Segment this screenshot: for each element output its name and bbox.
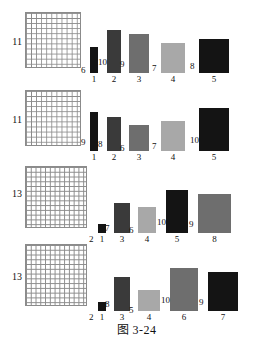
stage-row-3: 13 21736410598 — [0, 166, 273, 244]
bar-index-label: 4 — [171, 153, 176, 162]
stage-count-label-4: 13 — [0, 272, 22, 282]
scan-noise-artifact — [0, 0, 273, 6]
figure-3-24: 11 61102937485 11 91826374105 13 2173641… — [0, 0, 273, 342]
bar-value-label: 8 — [105, 300, 110, 309]
bar — [170, 268, 198, 311]
bar-value-label: 9 — [120, 60, 125, 69]
bar-index-label: 5 — [212, 75, 217, 84]
bar-slot: 106 — [170, 244, 198, 322]
bar-slot: 64 — [138, 166, 156, 244]
bar-index-label: 3 — [137, 75, 142, 84]
figure-caption: 图 3-24 — [0, 320, 273, 338]
stage-bars-3: 21736410598 — [98, 166, 231, 244]
bar-slot: 91 — [90, 90, 98, 162]
stage-grid-4 — [25, 244, 87, 306]
stage-grid-1 — [25, 12, 81, 68]
bar-slot: 83 — [114, 244, 130, 322]
bar — [198, 194, 231, 233]
bar — [199, 39, 229, 73]
bar-value-label: 9 — [199, 298, 204, 307]
bar — [199, 108, 229, 151]
stage-bars-2: 91826374105 — [90, 90, 229, 162]
bar — [166, 190, 188, 233]
bar-value-label: 10 — [161, 296, 170, 305]
bar-slot: 85 — [199, 12, 229, 84]
bar-value-label: 7 — [152, 64, 157, 73]
bar-value-label: 9 — [189, 220, 194, 229]
bar-slot: 102 — [107, 12, 121, 84]
stage-row-2: 11 91826374105 — [0, 90, 273, 162]
bar-index-label: 1 — [92, 75, 97, 84]
bar — [114, 203, 130, 233]
bar — [114, 277, 130, 311]
bar-slot: 54 — [138, 244, 160, 322]
bar-index-label: 5 — [175, 235, 180, 244]
bar-slot: 63 — [129, 90, 149, 162]
bar-index-label: 1 — [100, 235, 105, 244]
bar — [90, 47, 98, 73]
bar-index-label: 5 — [212, 153, 217, 162]
bar-value-label: 9 — [81, 138, 86, 147]
bar — [138, 290, 160, 312]
bar — [129, 34, 149, 73]
bar — [107, 117, 121, 151]
bar-value-label: 6 — [129, 226, 134, 235]
bar-slot: 73 — [114, 166, 130, 244]
bar-value-label: 8 — [190, 62, 195, 71]
stage-bars-1: 61102937485 — [90, 12, 229, 84]
bar-slot: 74 — [161, 12, 185, 84]
bar-index-label: 2 — [112, 153, 117, 162]
bar — [161, 121, 185, 151]
bar-index-label: 4 — [171, 75, 176, 84]
bar — [129, 125, 149, 151]
bar — [90, 112, 98, 151]
stage-count-label-2: 11 — [0, 115, 22, 125]
bar — [138, 207, 156, 233]
bar-slot: 82 — [107, 90, 121, 162]
stage-grid-2 — [25, 90, 81, 146]
bar-value-label: 10 — [190, 136, 199, 145]
bar-index-label: 1 — [92, 153, 97, 162]
stage-row-4: 13 21835410697 — [0, 244, 273, 322]
bar-value-label: 10 — [98, 58, 107, 67]
bar-value-label: 8 — [98, 140, 103, 149]
bar-value-label: 5 — [129, 306, 134, 315]
bar-slot: 98 — [198, 166, 231, 244]
bar-value-label: 10 — [157, 218, 166, 227]
bar — [208, 272, 238, 311]
stage-count-label-1: 11 — [0, 37, 22, 47]
bar-value-label: 7 — [152, 142, 157, 151]
bar-index-label: 4 — [145, 235, 150, 244]
bar-slot: 105 — [199, 90, 229, 162]
bar — [107, 30, 121, 73]
bar-slot: 21 — [98, 244, 106, 322]
stage-row-1: 11 61102937485 — [0, 12, 273, 84]
bar-slot: 97 — [208, 244, 238, 322]
bar-slot: 93 — [129, 12, 149, 84]
stage-count-label-3: 13 — [0, 189, 22, 199]
stage-bars-4: 21835410697 — [98, 244, 238, 322]
bar-value-label: 2 — [89, 235, 94, 244]
stage-grid-3 — [25, 166, 87, 228]
bar-value-label: 6 — [81, 66, 86, 75]
bar-slot: 74 — [161, 90, 185, 162]
bar — [161, 43, 185, 73]
bar-index-label: 3 — [137, 153, 142, 162]
bar-slot: 61 — [90, 12, 98, 84]
bar-index-label: 3 — [120, 235, 125, 244]
bar-value-label: 7 — [105, 224, 110, 233]
bar-index-label: 8 — [212, 235, 217, 244]
bar-value-label: 6 — [120, 144, 125, 153]
bar-index-label: 2 — [112, 75, 117, 84]
bar-slot: 105 — [166, 166, 188, 244]
